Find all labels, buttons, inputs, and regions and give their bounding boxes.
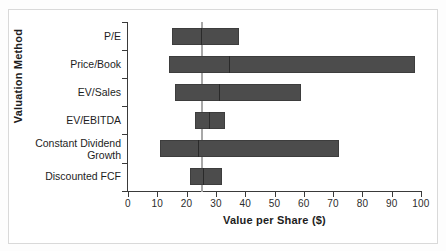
bar-discounted-fcf (190, 168, 222, 185)
x-axis-tick (392, 192, 393, 197)
x-axis-title: Value per Share ($) (128, 214, 421, 226)
y-axis-tick (122, 106, 128, 107)
y-axis-tick (122, 163, 128, 164)
y-category-label-constant-dividend-growth-line1: Constant Dividend (0, 138, 121, 150)
x-axis-tick (275, 192, 276, 197)
bar-constant-dividend-growth (160, 140, 339, 157)
bar-ev-sales (175, 84, 301, 101)
x-axis-tick-label: 20 (172, 198, 202, 209)
bar-marker-constant-dividend-growth (198, 140, 199, 157)
x-axis-tick (333, 192, 334, 197)
bar-ev-ebitda (195, 112, 224, 129)
y-category-label-ev-sales: EV/Sales (0, 87, 121, 99)
x-axis-tick (421, 192, 422, 197)
y-axis-line (127, 22, 128, 192)
figure-canvas: Valuation Method P/E Price/Book EV/Sales… (0, 0, 446, 251)
y-axis-title: Valuation Method (12, 0, 24, 156)
x-axis-tick-label: 60 (289, 198, 319, 209)
y-axis-tick (122, 78, 128, 79)
x-axis-tick-label: 50 (260, 198, 290, 209)
y-category-label-constant-dividend-growth-line2: Growth (0, 150, 121, 162)
x-axis-tick (157, 192, 158, 197)
reference-line (201, 22, 202, 192)
bar-marker-discounted-fcf (203, 168, 204, 185)
x-axis-tick-label: 10 (142, 198, 172, 209)
bar-marker-ev-sales (219, 84, 220, 101)
x-axis-tick-label: 0 (113, 198, 143, 209)
x-axis-tick-label: 100 (406, 198, 436, 209)
x-axis-tick-label: 30 (201, 198, 231, 209)
x-axis-tick-label: 40 (230, 198, 260, 209)
x-axis-tick (245, 192, 246, 197)
x-axis-tick-label: 90 (377, 198, 407, 209)
bar-price-book (169, 56, 415, 73)
x-axis-tick (128, 192, 129, 197)
x-axis-tick-label: 80 (347, 198, 377, 209)
x-axis-tick (362, 192, 363, 197)
y-category-label-pe: P/E (0, 31, 121, 43)
y-axis-tick (122, 50, 128, 51)
x-axis-tick-label: 70 (318, 198, 348, 209)
x-axis-tick (216, 192, 217, 197)
x-axis-tick (304, 192, 305, 197)
y-axis-tick (122, 134, 128, 135)
bar-p-e (172, 28, 239, 45)
bar-marker-p-e (201, 28, 202, 45)
y-category-label-ev-ebitda: EV/EBITDA (0, 115, 121, 127)
y-category-label-discounted-fcf: Discounted FCF (0, 171, 121, 183)
bar-marker-ev-ebitda (209, 112, 210, 129)
bar-marker-price-book (229, 56, 230, 73)
y-axis-tick (122, 22, 128, 23)
y-category-label-price-book: Price/Book (0, 59, 121, 71)
x-axis-tick (187, 192, 188, 197)
